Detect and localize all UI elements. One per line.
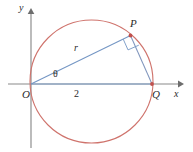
geometry-figure: y x O Q P r θ 2	[0, 0, 193, 152]
circle-outline	[30, 20, 153, 143]
x-axis-arrowhead	[178, 81, 184, 88]
figure-canvas	[0, 0, 193, 152]
y-axis-label: y	[19, 3, 23, 13]
chord-segment-op	[31, 36, 131, 85]
point-label-q: Q	[152, 89, 160, 100]
vertex-dot-p	[129, 34, 133, 38]
point-label-p: P	[130, 18, 137, 29]
y-axis-arrowhead	[28, 8, 35, 14]
segment-label-r: r	[74, 43, 78, 53]
point-label-o: O	[22, 89, 30, 100]
vertex-dot-q	[150, 82, 154, 86]
angle-label-theta: θ	[53, 69, 58, 79]
segment-label-two: 2	[74, 89, 79, 99]
x-axis-label: x	[174, 89, 178, 99]
